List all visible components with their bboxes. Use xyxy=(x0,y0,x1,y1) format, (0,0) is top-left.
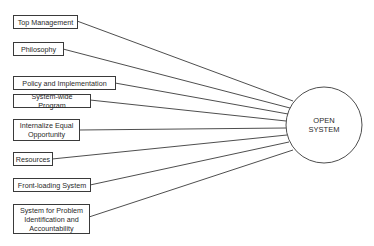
input-internalize-equal-opportunity: Internalize Equal Opportunity xyxy=(13,119,80,141)
input-resources: Resources xyxy=(13,152,53,166)
input-front-loading-system: Front-loading System xyxy=(13,178,91,192)
connector-system-wide xyxy=(90,100,286,121)
connector-internalize xyxy=(79,128,286,130)
connector-resources xyxy=(52,135,287,159)
input-philosophy: Philosophy xyxy=(13,42,64,56)
connector-problem-system xyxy=(89,150,293,217)
input-top-management: Top Management xyxy=(13,15,78,29)
input-policy-and-implementation: Policy and Implementation xyxy=(13,76,116,90)
open-system-label: OPEN SYSTEM xyxy=(304,116,344,134)
input-problem-identification-system: System for Problem Identification and Ac… xyxy=(13,204,90,234)
input-system-wide-program: System-wide Program xyxy=(13,94,91,108)
connector-front-loading xyxy=(90,142,289,185)
connector-policy xyxy=(115,83,288,114)
